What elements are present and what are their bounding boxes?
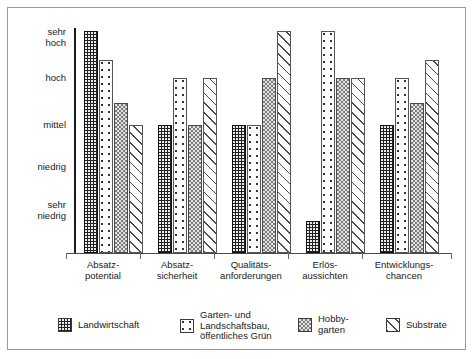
x-axis-line [66,253,452,254]
bar-substrate-qualitaetsanforderungen [277,31,291,253]
ytick-label-mittel: mittel [18,120,66,131]
bar-gala-erloesaussichten [321,31,335,253]
legend-item-gala: Garten- und Landschaftsbau, öffentliches… [180,310,272,342]
category-label-absatzpotential: Absatz- potential [66,259,140,281]
legend-label-hobbygarten: Hobby- garten [318,314,349,335]
legend-item-landwirtschaft: Landwirtschaft [58,318,139,332]
ytick-label-sehr-hoch: sehr hoch [18,27,66,48]
bar-substrate-absatzpotential [129,125,143,253]
ytick-label-sehr-niedrig: sehr niedrig [18,200,66,221]
legend-label-gala: Garten- und Landschaftsbau, öffentliches… [200,310,272,342]
bar-gala-entwicklungschancen [395,78,409,253]
bar-substrate-entwicklungschancen [425,60,439,253]
legend-item-hobbygarten: Hobby- garten [298,314,349,335]
bar-landwirtschaft-erloesaussichten [306,221,320,253]
bar-hobbygarten-entwicklungschancen [410,103,424,253]
category-label-entwicklungschancen: Entwicklungs- chancen [358,259,450,281]
grouped-bar-chart: sehr hoch hoch mittel niedrig sehr niedr… [0,0,475,359]
bar-substrate-absatzsicherheit [203,78,217,253]
white-diagonal-hatch-swatch-icon [386,318,400,332]
bar-hobbygarten-absatzpotential [114,103,128,253]
category-label-absatzsicherheit: Absatz- sicherheit [140,259,214,281]
bar-hobbygarten-qualitaetsanforderungen [262,78,276,253]
bar-landwirtschaft-absatzsicherheit [158,125,172,253]
bar-hobbygarten-absatzsicherheit [188,125,202,253]
legend-item-substrate: Substrate [386,318,447,332]
bar-gala-absatzsicherheit [173,78,187,253]
dark-dotted-swatch-icon [58,318,72,332]
bar-hobbygarten-erloesaussichten [336,78,350,253]
bar-landwirtschaft-absatzpotential [84,31,98,253]
grey-checker-swatch-icon [298,318,312,332]
plot-area [74,28,444,253]
white-sparse-dots-swatch-icon [180,319,194,333]
bar-substrate-erloesaussichten [351,78,365,253]
bar-gala-qualitaetsanforderungen [247,125,261,253]
legend-label-substrate: Substrate [406,320,447,331]
bar-landwirtschaft-qualitaetsanforderungen [232,125,246,253]
category-label-qualitaetsanforderungen: Qualitäts- anforderungen [210,259,292,281]
ytick-label-hoch: hoch [18,73,66,84]
bar-landwirtschaft-entwicklungschancen [380,125,394,253]
chart-legend: Landwirtschaft Garten- und Landschaftsba… [58,307,458,349]
x-axis-tick [451,253,452,259]
ytick-label-niedrig: niedrig [18,162,66,173]
bar-gala-absatzpotential [99,60,113,253]
legend-label-landwirtschaft: Landwirtschaft [78,320,139,331]
category-label-erloesaussichten: Erlös- aussichten [288,259,362,281]
